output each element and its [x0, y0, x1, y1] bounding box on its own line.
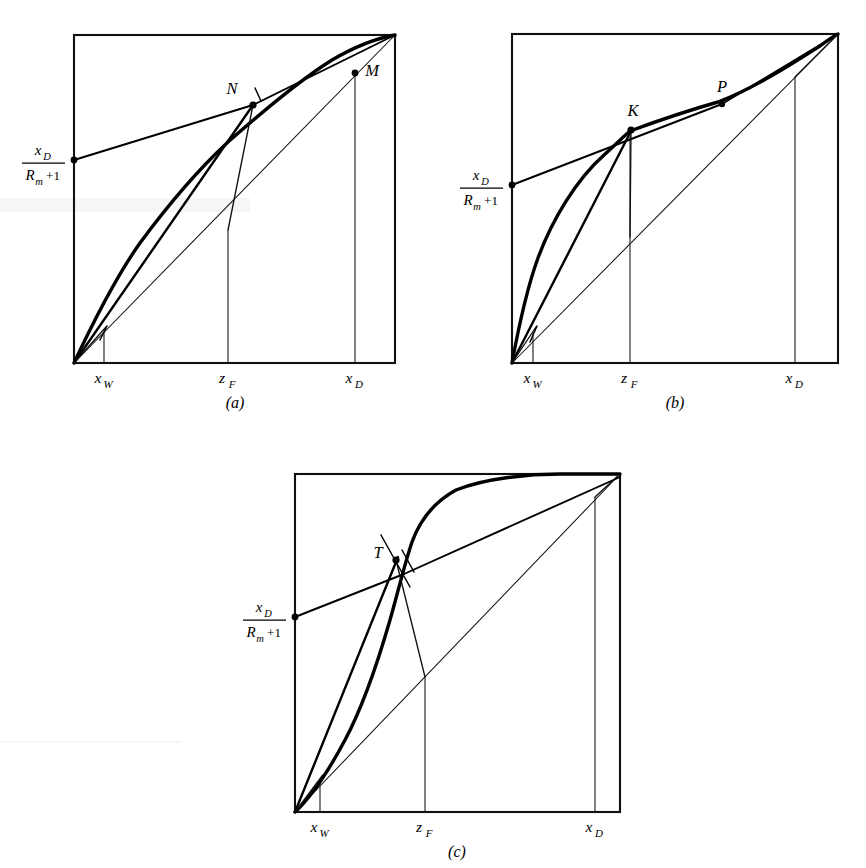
- panel-a-xd-label: x D: [345, 369, 363, 390]
- panel-b-point-p-dot: [719, 101, 725, 107]
- panel-c-xd-label: x D: [585, 818, 603, 839]
- svg-text:D: D: [594, 827, 603, 839]
- panel-b-point-k-dot: [627, 126, 634, 133]
- svg-text:x: x: [94, 369, 102, 386]
- panel-c-stripping-operating-line: [295, 557, 398, 812]
- panel-a-label-m: M: [364, 61, 380, 80]
- panel-a-rectifying-operating-line: [74, 105, 253, 160]
- panel-c-xd-connector: [595, 474, 620, 497]
- panel-a-tangent-tick-n: [255, 88, 261, 101]
- panel-b-label-k: K: [626, 101, 639, 120]
- panel-b-xd-label: x D: [785, 369, 803, 390]
- panel-a-zf-label: z F: [218, 369, 236, 390]
- svg-text:D: D: [480, 176, 489, 187]
- svg-text:z: z: [415, 818, 422, 835]
- svg-text:x: x: [523, 369, 531, 386]
- svg-text:x: x: [310, 818, 318, 835]
- panel-c-rectifying-operating-line-upper: [404, 477, 620, 574]
- panel-c-q-line: [396, 560, 425, 677]
- panel-c-caption: (c): [448, 843, 466, 861]
- svg-text:W: W: [319, 827, 329, 839]
- panel-c-xw-label: x W: [310, 818, 330, 839]
- panel-b-intercept-fraction: x D R m +1: [460, 167, 503, 212]
- svg-text:+1: +1: [267, 625, 281, 640]
- panel-c-label-t: T: [373, 543, 384, 562]
- panel-a-intercept-dot: [71, 157, 78, 164]
- svg-text:F: F: [425, 827, 433, 839]
- svg-text:D: D: [354, 378, 363, 390]
- svg-text:x: x: [255, 599, 263, 615]
- svg-text:D: D: [794, 378, 803, 390]
- panel-c: T x W z F x D x D R m +1: [243, 474, 620, 861]
- svg-text:F: F: [630, 378, 638, 390]
- panel-a: N M x W z F x D x D R m +1: [22, 35, 395, 412]
- panel-b-diagonal-line: [512, 34, 838, 363]
- panel-a-xw-label: x W: [94, 369, 114, 390]
- svg-text:x: x: [34, 142, 42, 158]
- svg-text:x: x: [345, 369, 353, 386]
- svg-text:z: z: [218, 369, 225, 386]
- panel-b-xw-label: x W: [523, 369, 543, 390]
- panel-a-point-m-dot: [352, 70, 359, 77]
- panel-a-stripping-operating-line: [74, 105, 253, 363]
- panel-b-caption: (b): [666, 394, 685, 412]
- panel-b-label-p: P: [716, 77, 727, 96]
- panel-a-point-n-dot: [249, 101, 256, 108]
- panel-b: K P x W z F x D x D R m +1: [460, 34, 838, 412]
- svg-text:m: m: [473, 201, 481, 212]
- panel-a-caption: (a): [226, 394, 245, 412]
- panel-a-intercept-fraction: x D R m +1: [22, 142, 65, 187]
- panel-c-intercept-dot: [292, 614, 299, 621]
- panel-c-zf-label: z F: [415, 818, 433, 839]
- svg-text:x: x: [472, 167, 480, 183]
- scan-smudge: [0, 198, 250, 212]
- panel-c-intercept-fraction: x D R m +1: [243, 599, 286, 644]
- svg-text:R: R: [462, 192, 472, 208]
- svg-text:W: W: [532, 378, 542, 390]
- svg-text:m: m: [256, 633, 264, 644]
- panel-b-rectifying-operating-line: [512, 104, 722, 185]
- figure-root: N M x W z F x D x D R m +1: [0, 0, 866, 868]
- svg-text:D: D: [263, 608, 272, 619]
- panel-a-label-n: N: [225, 79, 238, 98]
- svg-text:z: z: [620, 369, 627, 386]
- panel-b-intercept-dot: [509, 182, 516, 189]
- svg-text:x: x: [785, 369, 793, 386]
- svg-text:+1: +1: [46, 168, 60, 183]
- panel-b-stripping-operating-line: [512, 131, 631, 363]
- svg-text:+1: +1: [484, 193, 498, 208]
- panel-b-rectifying-operating-line-upper: [722, 34, 838, 104]
- panel-c-diagonal-line: [295, 474, 620, 812]
- svg-text:F: F: [228, 378, 236, 390]
- svg-text:D: D: [42, 151, 51, 162]
- svg-text:R: R: [24, 167, 34, 183]
- mccabe-thiele-figure: N M x W z F x D x D R m +1: [0, 0, 866, 868]
- panel-c-point-t-dot: [392, 556, 399, 563]
- panel-b-zf-label: z F: [620, 369, 638, 390]
- svg-text:R: R: [245, 624, 255, 640]
- svg-text:x: x: [585, 818, 593, 835]
- svg-text:m: m: [35, 176, 43, 187]
- svg-text:W: W: [103, 378, 113, 390]
